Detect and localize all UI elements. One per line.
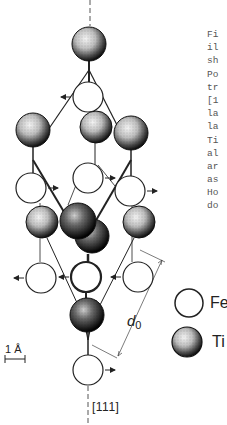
fe-atom — [73, 163, 115, 193]
legend-symbols — [172, 289, 203, 357]
legend-label-ti: Ti — [212, 333, 225, 351]
ti-atom — [26, 206, 58, 238]
scale-bar-label: 1 Å — [5, 343, 22, 355]
fe-atom — [59, 262, 101, 292]
ti-atom — [123, 206, 155, 238]
fe-atom — [16, 173, 58, 203]
caption-line: la — [207, 107, 227, 120]
caption-line: do — [207, 199, 227, 212]
legend-label-fe: Fe — [210, 294, 227, 312]
fe-atom — [115, 176, 157, 206]
ti-atom — [72, 27, 106, 61]
fe-atom — [61, 82, 103, 112]
caption-line: Fi — [207, 28, 227, 41]
ti-atom — [60, 203, 96, 239]
caption-line: Ti — [207, 134, 227, 147]
fe-atom — [111, 262, 153, 292]
atoms-group — [14, 27, 157, 385]
axis-label-111: [111] — [92, 400, 119, 414]
caption-line: al — [207, 147, 227, 160]
scale-bar — [5, 355, 25, 363]
fe-atom — [73, 355, 115, 385]
lattice-parameter-label: d0 — [127, 312, 141, 331]
crystal-structure-diagram — [0, 0, 227, 425]
caption-line: il — [207, 41, 227, 54]
caption-line: ar — [207, 160, 227, 173]
caption-line: Ho — [207, 186, 227, 199]
caption-line: tr — [207, 81, 227, 94]
ti-atom — [16, 113, 50, 147]
caption-text-column: FiilshPotr[1lalaTialarasHodo — [207, 28, 227, 213]
ti-atom — [114, 116, 148, 150]
legend-fe-symbol — [175, 289, 203, 317]
ti-atom — [80, 111, 112, 143]
caption-line: Po — [207, 68, 227, 81]
caption-line: sh — [207, 54, 227, 67]
caption-line: [1 — [207, 94, 227, 107]
fe-atom — [14, 263, 56, 293]
lattice-parameter-subscript: 0 — [135, 319, 141, 331]
caption-line: la — [207, 120, 227, 133]
ti-atom — [70, 298, 104, 332]
caption-line: as — [207, 173, 227, 186]
